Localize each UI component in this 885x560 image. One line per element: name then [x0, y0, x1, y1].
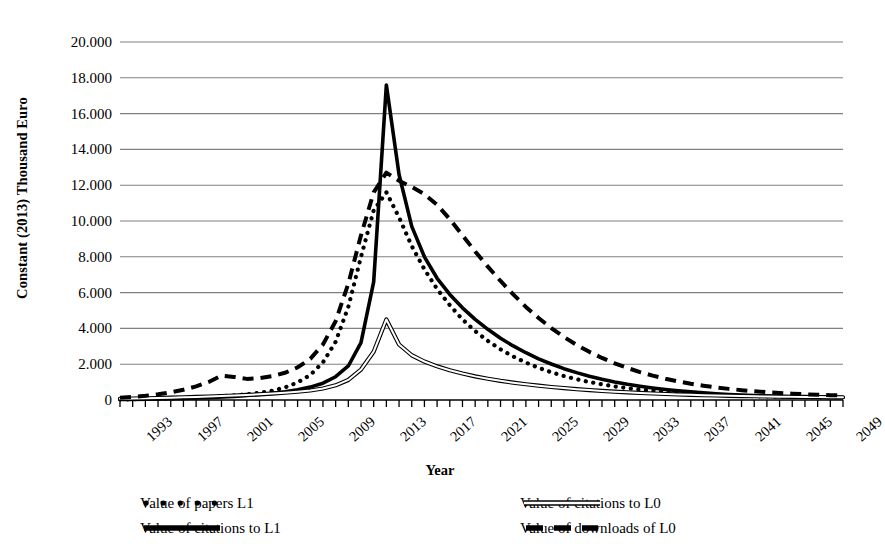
- series-line-double-thin: [120, 319, 843, 398]
- x-axis: [120, 400, 843, 407]
- legend-item: Value of papers L1: [140, 496, 254, 511]
- gridlines: [120, 42, 843, 364]
- series-line-solid-thick: [120, 85, 843, 400]
- series-line-dotted: [120, 192, 843, 399]
- series-group: [120, 85, 843, 400]
- legend-item: Value of citations to L1: [140, 521, 281, 536]
- legend-item: Value of citations to L0: [520, 496, 661, 511]
- dotted-line-swatch: [140, 496, 224, 510]
- series-line-inner: [120, 319, 843, 398]
- double-thin-line-swatch: [520, 496, 604, 510]
- dashed-line-swatch: [520, 521, 604, 535]
- legend-item: Value of downloads of L0: [520, 521, 676, 536]
- x-axis-title: Year: [0, 462, 880, 479]
- solid-thick-line-swatch: [140, 521, 224, 535]
